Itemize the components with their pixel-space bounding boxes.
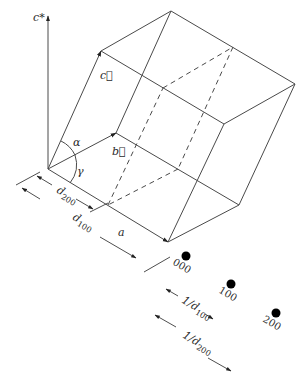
- point-100-label: 100: [217, 284, 239, 303]
- c-star-label: c*: [33, 11, 45, 24]
- unit-cell-edges: [48, 11, 295, 242]
- d200-label: d200: [53, 183, 80, 207]
- alpha-label: α: [73, 136, 81, 149]
- svg-text:1/d100: 1/d100: [178, 293, 214, 323]
- svg-text:d100: d100: [69, 210, 96, 234]
- inv-d200-label: 1/d200: [179, 328, 215, 358]
- d100-label: d100: [69, 210, 96, 234]
- lattice-plane-200: [108, 47, 233, 205]
- c-star-axis: c*: [33, 11, 48, 169]
- svg-text:100: 100: [217, 284, 239, 303]
- point-000-label: 000: [171, 256, 193, 275]
- unit-cell-diagram: c* c⃗ b⃗: [0, 0, 304, 380]
- svg-text:000: 000: [171, 256, 193, 275]
- svg-text:200: 200: [261, 313, 283, 332]
- c-vector-label: c⃗: [100, 69, 113, 82]
- svg-text:1/d200: 1/d200: [179, 328, 215, 358]
- dimension-lines: [16, 172, 170, 272]
- point-200-label: 200: [261, 313, 283, 332]
- inv-d100-label: 1/d100: [178, 293, 214, 323]
- a-length-label: a: [118, 226, 125, 239]
- b-vector-label: b⃗: [112, 145, 126, 158]
- gamma-label: γ: [77, 165, 84, 178]
- svg-text:d200: d200: [53, 183, 80, 207]
